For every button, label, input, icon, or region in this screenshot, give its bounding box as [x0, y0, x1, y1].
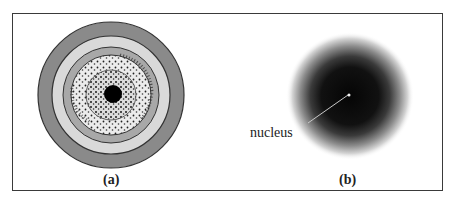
caption-b: (b) — [339, 172, 356, 188]
nucleus-label: nucleus — [250, 125, 293, 141]
nucleus-dot — [348, 94, 351, 97]
nucleus-core — [104, 85, 122, 103]
cloud-model — [286, 32, 414, 160]
figure-graphics — [0, 0, 458, 202]
caption-a: (a) — [103, 172, 119, 188]
shell-model — [38, 22, 184, 168]
